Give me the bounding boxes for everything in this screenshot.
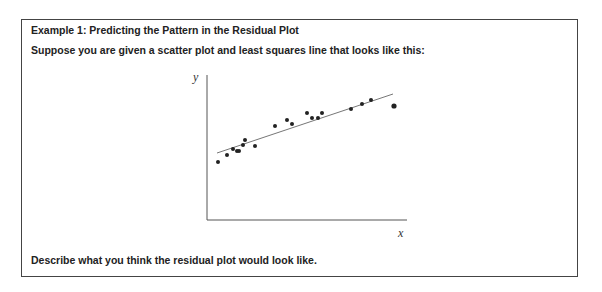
plot-axes	[207, 75, 407, 220]
y-axis-label: y	[192, 70, 199, 84]
data-point	[241, 143, 245, 147]
data-point	[391, 103, 396, 108]
data-point	[237, 149, 241, 153]
data-point	[231, 147, 235, 151]
data-point	[290, 122, 294, 126]
data-point	[273, 124, 277, 128]
data-point	[320, 111, 324, 115]
data-point	[253, 144, 257, 148]
data-point	[369, 98, 373, 102]
data-point	[360, 102, 364, 106]
data-point	[243, 138, 247, 142]
data-point	[316, 116, 320, 120]
scatter-plot: y x	[0, 0, 602, 292]
data-point	[285, 118, 289, 122]
data-point	[349, 107, 353, 111]
data-point	[310, 116, 314, 120]
data-point	[305, 111, 309, 115]
x-axis-label: x	[397, 226, 404, 240]
data-point	[216, 160, 220, 164]
data-point	[225, 153, 229, 157]
